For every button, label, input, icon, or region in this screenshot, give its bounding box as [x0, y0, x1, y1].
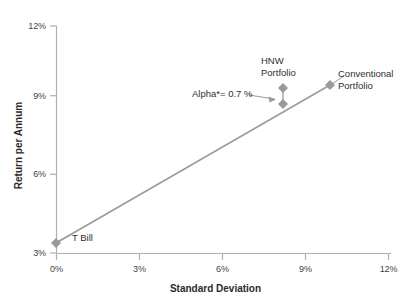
x-tick-label-6: 6% — [216, 264, 229, 274]
alpha-annotation-label: Alpha*= 0.7 % — [192, 88, 252, 100]
marker-conventional-portfolio — [325, 80, 335, 90]
plot-area — [0, 0, 409, 304]
hnw-portfolio-label-line1: HNW — [261, 55, 296, 67]
y-tick-label-12: 12% — [22, 21, 46, 31]
y-tick-label-9: 9% — [22, 91, 46, 101]
marker-hnw-portfolio — [278, 83, 288, 93]
hnw-portfolio-label-line2: Portfolio — [261, 67, 296, 79]
marker-benchmark-on-line — [278, 99, 288, 109]
x-tick-label-9: 9% — [299, 264, 312, 274]
x-axis-title: Standard Deviation — [0, 283, 409, 294]
y-axis-title: Return per Annum — [13, 76, 24, 216]
x-tick-label-3: 3% — [133, 264, 146, 274]
conventional-portfolio-label-line2: Portfolio — [338, 80, 393, 92]
hnw-portfolio-label: HNW Portfolio — [261, 55, 296, 79]
conventional-portfolio-label-line1: Conventional — [338, 68, 393, 80]
x-tick-label-12: 12% — [380, 264, 398, 274]
conventional-portfolio-label: Conventional Portfolio — [338, 68, 393, 92]
tbill-label: T Bill — [72, 232, 93, 244]
risk-return-chart: 12% 9% 6% 3% 0% 3% 6% 9% 12% Standard De… — [0, 0, 409, 304]
tbill-leader-line — [57, 234, 72, 242]
capital-market-line — [56, 85, 330, 243]
marker-tbill — [51, 238, 61, 248]
y-tick-label-3: 3% — [22, 248, 46, 258]
alpha-arrow-head — [269, 97, 277, 103]
x-tick-label-0: 0% — [50, 264, 63, 274]
y-tick-label-6: 6% — [22, 169, 46, 179]
